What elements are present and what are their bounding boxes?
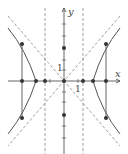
y-unit-label: 1: [57, 63, 63, 73]
y-axis-label: y: [67, 6, 74, 17]
x-axis-label: x: [115, 68, 121, 79]
hyperbola-diagram: x y 1 1: [0, 0, 128, 154]
x-unit-label: 1: [75, 84, 81, 94]
